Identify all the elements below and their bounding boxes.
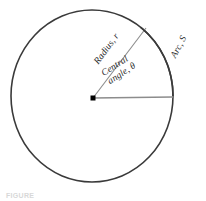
arc-segment bbox=[141, 27, 173, 96]
figure-container: Radius, r Centralangle, θ Arc, S FIGURE bbox=[0, 0, 206, 201]
horizontal-radius-line bbox=[93, 97, 173, 98]
center-point bbox=[91, 96, 96, 101]
circle-diagram-svg bbox=[0, 0, 206, 201]
figure-caption: FIGURE bbox=[6, 192, 34, 199]
